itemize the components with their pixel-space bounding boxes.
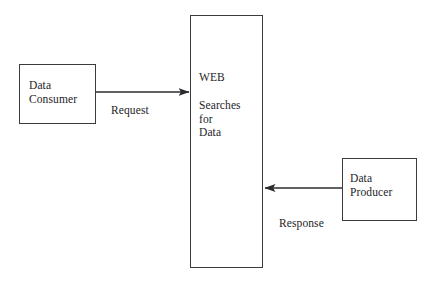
diagram-canvas: Data Consumer WEB Searches for Data Data… xyxy=(0,0,434,286)
web-node xyxy=(190,15,263,268)
response-edge-label: Response xyxy=(279,217,324,231)
request-edge-label: Request xyxy=(111,104,149,118)
data-consumer-label: Data Consumer xyxy=(29,79,77,106)
data-producer-label: Data Producer xyxy=(350,172,392,199)
web-node-title: WEB xyxy=(199,71,225,85)
web-node-body: Searches for Data xyxy=(199,99,241,140)
